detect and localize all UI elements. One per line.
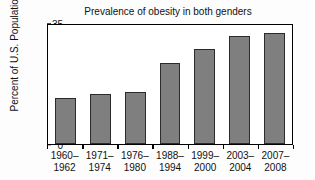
chart-figure: Prevalence of obesity in both genders Pe… [0,0,315,180]
bar-slot [118,25,153,144]
bar-slot [83,25,118,144]
x-tick-mark [82,145,83,149]
x-tick-label-line: 2008 [262,162,290,174]
x-tick-mark [293,145,294,149]
x-tick-label: 1988–1994 [156,150,184,174]
plot-area [47,24,293,145]
x-tick-mark [152,145,153,149]
bar-slot [257,25,292,144]
x-tick-label-line: 1976– [121,150,149,162]
x-tick-mark [117,145,118,149]
x-tick-label: 1971–1974 [86,150,114,174]
x-tick-label: 2007–2008 [262,150,290,174]
bar [264,33,285,144]
x-tick-mark [223,145,224,149]
bar-slot [153,25,188,144]
bar [160,63,181,144]
bar [125,92,146,144]
x-tick-label-line: 2007– [262,150,290,162]
x-tick-label-line: 1960– [51,150,79,162]
bar-slot [222,25,257,144]
x-tick-label: 1960–1962 [51,150,79,174]
x-tick-label-line: 1994 [156,162,184,174]
bar [229,36,250,144]
x-tick-label-line: 2003– [226,150,254,162]
bar-slot [48,25,83,144]
x-tick-label-line: 1974 [86,162,114,174]
x-tick-mark [258,145,259,149]
x-tick-label-line: 1980 [121,162,149,174]
x-tick-label-line: 1962 [51,162,79,174]
bar-slot [187,25,222,144]
bar [55,98,76,144]
chart-title: Prevalence of obesity in both genders [46,6,290,17]
x-tick-label: 1976–1980 [121,150,149,174]
bar [194,49,215,144]
x-tick-label-line: 2004 [226,162,254,174]
x-tick-label-line: 1971– [86,150,114,162]
x-tick-label: 1999–2000 [191,150,219,174]
x-tick-label-line: 1999– [191,150,219,162]
x-tick-mark [188,145,189,149]
x-tick-label-line: 2000 [191,162,219,174]
bar-series [48,25,292,144]
bar [90,94,111,144]
x-tick-label-line: 1988– [156,150,184,162]
x-tick-mark [47,145,48,149]
y-axis-label: Percent of U.S. Population [9,0,20,118]
x-tick-label: 2003–2004 [226,150,254,174]
